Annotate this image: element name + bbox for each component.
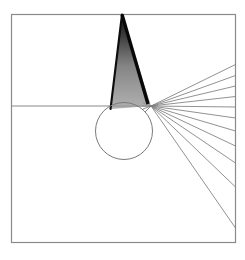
- ray-diagram-figure: [0, 0, 245, 260]
- refracted-ray-11: [151, 106, 236, 228]
- refracted-ray-9: [151, 106, 236, 163]
- ray-diagram-canvas: [0, 0, 245, 260]
- refracted-ray-1: [151, 65, 236, 107]
- refracted-ray-5: [151, 106, 236, 107]
- refracted-ray-fan: [151, 65, 236, 229]
- refracted-ray-3: [151, 86, 236, 106]
- lens-circle: [96, 103, 153, 160]
